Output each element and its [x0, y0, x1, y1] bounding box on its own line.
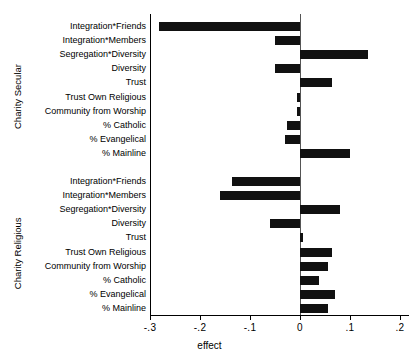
bar — [300, 233, 303, 242]
bar — [300, 276, 319, 285]
x-tick-label: 0 — [280, 322, 320, 333]
x-tick — [350, 315, 351, 320]
effect-bar-chart: -.3-.2-.10.1.2 Integration*FriendsIntegr… — [0, 0, 419, 358]
x-tick — [200, 315, 201, 320]
bar — [300, 304, 328, 313]
bar — [275, 64, 300, 73]
bar — [232, 177, 300, 186]
bar — [287, 121, 300, 130]
bar — [300, 205, 340, 214]
x-axis-label: effect — [0, 340, 419, 351]
bar — [297, 93, 300, 102]
y-category-label: Integration*Members — [0, 36, 146, 45]
bar — [285, 135, 300, 144]
bar — [270, 219, 300, 228]
bar — [300, 290, 335, 299]
y-category-label: Integration*Members — [0, 191, 146, 200]
bar — [159, 22, 300, 31]
y-axis-line — [150, 14, 151, 315]
y-category-label: % Evangelical — [0, 290, 146, 299]
x-tick — [250, 315, 251, 320]
bar — [220, 191, 300, 200]
x-tick-label: .2 — [380, 322, 419, 333]
y-category-label: % Mainline — [0, 304, 146, 313]
bar — [300, 248, 332, 257]
group-title: Charity Religious — [12, 218, 23, 290]
y-category-label: Segregation*Diversity — [0, 205, 146, 214]
x-axis-line — [150, 315, 409, 316]
x-tick — [150, 315, 151, 320]
x-tick-label: -.3 — [130, 322, 170, 333]
bar — [300, 78, 332, 87]
x-tick — [300, 315, 301, 320]
bar — [275, 36, 300, 45]
x-tick — [400, 315, 401, 320]
y-category-label: Segregation*Diversity — [0, 50, 146, 59]
bar — [300, 262, 328, 271]
bar — [297, 107, 300, 116]
bar — [300, 149, 350, 158]
y-category-label: % Mainline — [0, 149, 146, 158]
bar — [300, 50, 368, 59]
y-category-label: Integration*Friends — [0, 177, 146, 186]
x-tick-label: -.2 — [180, 322, 220, 333]
x-tick-label: .1 — [330, 322, 370, 333]
y-category-label: Integration*Friends — [0, 22, 146, 31]
y-category-label: % Evangelical — [0, 135, 146, 144]
group-title: Charity Secular — [12, 64, 23, 129]
x-tick-label: -.1 — [230, 322, 270, 333]
